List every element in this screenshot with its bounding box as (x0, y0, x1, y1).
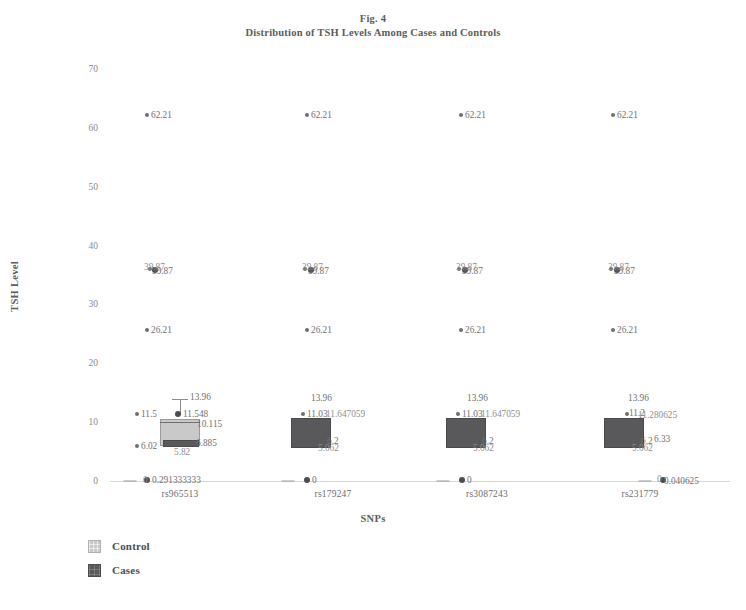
label-0: 0 (657, 474, 662, 484)
x-tick-rs965513: rs965513 (105, 489, 255, 499)
legend-label-cases: Cases (112, 564, 140, 576)
label-6-02: 6.02 (141, 441, 157, 451)
y-tick-30: 30 (58, 299, 98, 309)
y-tick-50: 50 (58, 182, 98, 192)
y-tick-0: 0 (58, 476, 98, 486)
outlier-label-26-21: 26.21 (151, 325, 172, 335)
outlier-label-26-21: 26.21 (465, 325, 486, 335)
label-11-548: 11.548 (183, 409, 208, 419)
outlier-marker-62-21 (305, 113, 309, 117)
outlier-label-62-21: 62.21 (465, 110, 486, 120)
x-tick-rs179247: rs179247 (258, 489, 408, 499)
cases-box (163, 440, 199, 447)
outlier-marker-26-21 (611, 328, 615, 332)
legend-item-cases[interactable]: Cases (88, 558, 150, 582)
label-0-040625: 0.040625 (664, 476, 699, 486)
figure-caption: Distribution of TSH Levels Among Cases a… (0, 26, 746, 40)
zero-dash (639, 481, 652, 482)
label-10-115: 10.115 (197, 419, 222, 429)
figure-canvas: Fig. 4 Distribution of TSH Levels Among … (0, 0, 746, 610)
y-tick-60: 60 (58, 123, 98, 133)
x-axis-baseline (110, 481, 730, 482)
outlier-marker-62-21 (611, 113, 615, 117)
marker-q3 (301, 412, 305, 416)
figure-title-block: Fig. 4 Distribution of TSH Levels Among … (0, 12, 746, 40)
x-axis-label: SNPs (0, 513, 746, 524)
outlier-label-39-87-b: 39.87 (308, 266, 329, 276)
outlier-marker-62-21 (145, 113, 149, 117)
outlier-marker-26-21 (145, 328, 149, 332)
zero-marker (304, 477, 310, 483)
label-0: 0 (312, 475, 317, 485)
outlier-label-62-21: 62.21 (617, 110, 638, 120)
label-13-96: 13.96 (190, 392, 211, 402)
outlier-marker-26-21 (305, 328, 309, 332)
outlier-label-26-21: 26.21 (617, 325, 638, 335)
label-13-96: 13.96 (311, 393, 332, 403)
outlier-label-39-87-b: 39.87 (614, 266, 635, 276)
marker-q3 (175, 411, 181, 417)
label-6-33: 6.33 (654, 434, 670, 444)
zero-dash (437, 481, 450, 482)
outlier-label-62-21: 62.21 (151, 110, 172, 120)
outlier-marker-11-5 (135, 412, 139, 416)
outlier-label-39-87-b: 39.87 (462, 266, 483, 276)
outlier-marker-26-21 (459, 328, 463, 332)
x-tick-rs231779: rs231779 (565, 489, 715, 499)
label-5-062: 5.062 (318, 443, 339, 453)
label-11-647059: 11.647059 (481, 409, 520, 419)
outlier-label-62-21: 62.21 (311, 110, 332, 120)
zero-dash (282, 481, 295, 482)
y-tick-40: 40 (58, 241, 98, 251)
label-13-96: 13.96 (467, 393, 488, 403)
outlier-marker-6-02 (135, 444, 139, 448)
y-tick-20: 20 (58, 358, 98, 368)
zero-marker (459, 477, 465, 483)
marker-q3 (456, 412, 460, 416)
legend-label-control: Control (112, 540, 150, 552)
legend-item-control[interactable]: Control (88, 534, 150, 558)
y-tick-10: 10 (58, 417, 98, 427)
label-0-291333333: 0.291333333 (152, 475, 201, 485)
y-axis-label: TSH Level (9, 261, 20, 312)
control-median-line (160, 422, 200, 423)
y-tick-70: 70 (58, 64, 98, 74)
label-6-885: 6.885 (196, 438, 217, 448)
outlier-label-26-21: 26.21 (311, 325, 332, 335)
x-tick-rs3087243: rs3087243 (412, 489, 562, 499)
label-0: 0 (467, 475, 472, 485)
label-5-062: 5.062 (473, 443, 494, 453)
outlier-label-39-87-b: 39.87 (152, 266, 173, 276)
legend-swatch-control-icon (88, 540, 101, 553)
zero-dash (124, 481, 137, 482)
label-13-96: 13.96 (628, 393, 649, 403)
label-11-647059: 11.647059 (326, 409, 365, 419)
label-0: 0 (143, 475, 148, 485)
label-11-5: 11.5 (141, 409, 157, 419)
figure-number: Fig. 4 (0, 12, 746, 26)
outlier-marker-62-21 (459, 113, 463, 117)
label-5-062: 5.062 (632, 443, 653, 453)
chart-legend: Control Cases (88, 534, 150, 582)
legend-swatch-cases-icon (88, 564, 101, 577)
label-5-82: 5.82 (174, 447, 190, 457)
